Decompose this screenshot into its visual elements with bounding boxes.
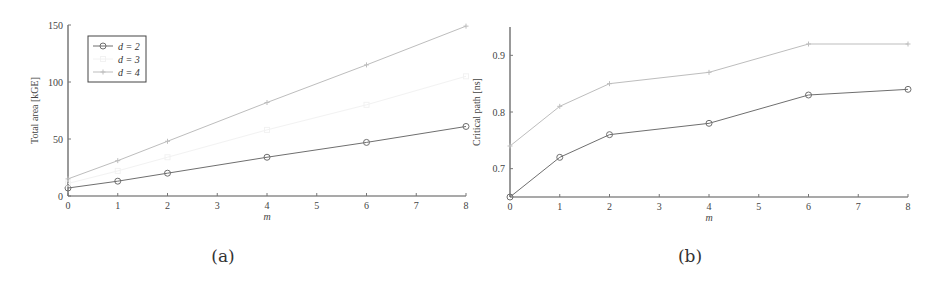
x-tick-label: 0 bbox=[66, 200, 71, 211]
y-tick-label: 0 bbox=[58, 191, 63, 202]
series-line bbox=[66, 74, 469, 186]
legend-label: d = 4 bbox=[118, 67, 140, 78]
caption-a: (a) bbox=[211, 246, 234, 266]
x-axis-label: m bbox=[705, 212, 712, 223]
caption-b: (b) bbox=[678, 246, 702, 266]
x-tick-label: 1 bbox=[115, 200, 120, 211]
star-marker bbox=[806, 42, 811, 47]
data-line bbox=[68, 76, 466, 183]
x-tick-label: 5 bbox=[314, 200, 319, 211]
x-axis-label: m bbox=[263, 211, 270, 222]
star-marker bbox=[115, 158, 120, 163]
x-tick-label: 7 bbox=[856, 201, 861, 212]
x-tick-label: 6 bbox=[364, 200, 369, 211]
series-line bbox=[508, 42, 911, 149]
star-marker bbox=[607, 81, 612, 86]
x-tick-label: 2 bbox=[165, 200, 170, 211]
star-marker bbox=[364, 62, 369, 67]
chart-critical-path: 0123456780.70.80.9mCritical path [ns] bbox=[471, 27, 911, 223]
y-tick-label: 0.8 bbox=[493, 107, 506, 118]
legend-label: d = 2 bbox=[118, 41, 140, 52]
legend-label: d = 3 bbox=[118, 54, 140, 65]
figure: 012345678050100150mTotal area [kGE]d = 2… bbox=[0, 0, 942, 286]
series-line bbox=[507, 86, 911, 200]
x-tick-label: 2 bbox=[607, 201, 612, 212]
star-marker bbox=[906, 42, 911, 47]
x-tick-label: 8 bbox=[464, 200, 469, 211]
x-tick-label: 1 bbox=[557, 201, 562, 212]
x-tick-label: 4 bbox=[265, 200, 270, 211]
y-tick-label: 100 bbox=[48, 77, 63, 88]
y-tick-label: 0.9 bbox=[493, 50, 506, 61]
star-marker bbox=[165, 139, 170, 144]
y-axis-label: Critical path [ns] bbox=[471, 78, 482, 146]
data-line bbox=[510, 89, 908, 197]
y-tick-label: 0.7 bbox=[493, 163, 506, 174]
y-tick-label: 50 bbox=[53, 134, 63, 145]
star-marker bbox=[464, 24, 469, 29]
star-marker bbox=[265, 100, 270, 105]
star-marker bbox=[707, 70, 712, 75]
legend: d = 2d = 3d = 4 bbox=[88, 36, 146, 82]
x-tick-label: 4 bbox=[707, 201, 712, 212]
x-tick-label: 3 bbox=[215, 200, 220, 211]
y-axis-label: Total area [kGE] bbox=[29, 77, 40, 144]
chart-total-area: 012345678050100150mTotal area [kGE]d = 2… bbox=[29, 20, 469, 223]
x-tick-label: 7 bbox=[414, 200, 419, 211]
x-tick-label: 0 bbox=[508, 201, 513, 212]
data-line bbox=[510, 44, 908, 146]
x-tick-label: 8 bbox=[906, 201, 911, 212]
x-tick-label: 3 bbox=[657, 201, 662, 212]
x-tick-label: 5 bbox=[756, 201, 761, 212]
x-tick-label: 6 bbox=[806, 201, 811, 212]
y-tick-label: 150 bbox=[48, 20, 63, 31]
